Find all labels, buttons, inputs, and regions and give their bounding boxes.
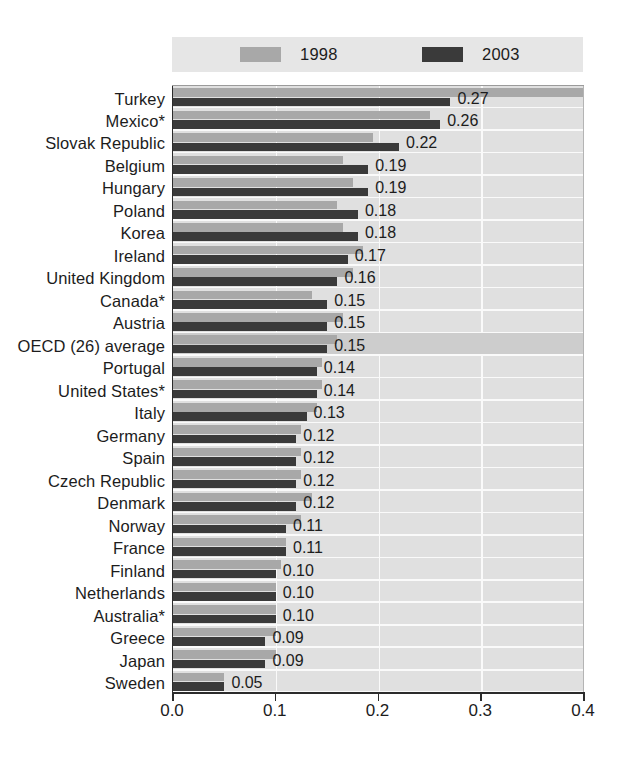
- category-label: Netherlands: [75, 582, 165, 604]
- data-label: 0.12: [303, 447, 334, 469]
- category-label: France: [113, 537, 165, 559]
- category-label: Italy: [134, 402, 165, 424]
- category-label: Belgium: [105, 155, 165, 177]
- axis-tick: [172, 692, 174, 701]
- category-label: OECD (26) average: [17, 335, 165, 357]
- bar-1998: [173, 335, 337, 344]
- axis-tick-label: 0.0: [160, 701, 184, 721]
- bar-2003: [173, 435, 296, 444]
- bar-1998: [173, 88, 584, 97]
- category-axis-labels: TurkeyMexico*Slovak RepublicBelgiumHunga…: [0, 86, 165, 693]
- bar-1998: [173, 246, 363, 255]
- data-label: 0.12: [303, 470, 334, 492]
- chart-row: [173, 603, 584, 625]
- bar-1998: [173, 403, 317, 412]
- legend-swatch-1998-icon: [240, 47, 281, 62]
- axis-tick: [275, 692, 277, 701]
- data-label: 0.16: [344, 267, 375, 289]
- data-label: 0.09: [272, 650, 303, 672]
- bar-2003: [173, 120, 440, 129]
- data-label: 0.15: [334, 312, 365, 334]
- data-label: 0.10: [283, 605, 314, 627]
- data-label: 0.27: [457, 88, 488, 110]
- category-label: Hungary: [102, 177, 165, 199]
- category-label: Slovak Republic: [45, 132, 165, 154]
- bar-2003: [173, 277, 337, 286]
- category-label: Denmark: [97, 492, 165, 514]
- data-label: 0.19: [375, 177, 406, 199]
- chart-legend: 1998 2003: [172, 37, 583, 72]
- data-label: 0.13: [314, 402, 345, 424]
- bar-2003: [173, 525, 286, 534]
- bar-1998: [173, 448, 301, 457]
- data-label: 0.18: [365, 200, 396, 222]
- data-label: 0.19: [375, 155, 406, 177]
- category-label: Czech Republic: [48, 470, 165, 492]
- data-label: 0.18: [365, 222, 396, 244]
- bar-1998: [173, 673, 224, 682]
- chart-row: [173, 536, 584, 558]
- bar-1998: [173, 201, 337, 210]
- bar-2003: [173, 390, 317, 399]
- data-label: 0.05: [231, 672, 262, 694]
- axis-tick-label: 0.4: [571, 701, 595, 721]
- bar-2003: [173, 210, 358, 219]
- bar-1998: [173, 291, 312, 300]
- category-label: Sweden: [105, 672, 165, 694]
- data-label: 0.22: [406, 132, 437, 154]
- data-label: 0.14: [324, 380, 355, 402]
- axis-tick-label: 0.3: [468, 701, 492, 721]
- data-label: 0.15: [334, 335, 365, 357]
- legend-swatch-2003-icon: [422, 47, 463, 62]
- legend-label-1998: 1998: [300, 45, 338, 64]
- category-label: Canada*: [100, 290, 165, 312]
- data-label: 0.11: [293, 537, 323, 559]
- bar-2003: [173, 457, 296, 466]
- bar-2003: [173, 345, 327, 354]
- chart-row: [173, 446, 584, 468]
- axis-tick: [583, 692, 585, 701]
- bar-2003: [173, 570, 276, 579]
- category-label: Turkey: [115, 88, 165, 110]
- chart-row: [173, 356, 584, 378]
- bar-2003: [173, 165, 368, 174]
- bar-2003: [173, 615, 276, 624]
- axis-tick-label: 0.2: [366, 701, 390, 721]
- bar-1998: [173, 493, 312, 502]
- legend-entry-1998: 1998: [240, 37, 338, 72]
- chart-row: [173, 491, 584, 513]
- chart-row: [173, 558, 584, 580]
- bar-1998: [173, 583, 276, 592]
- chart-row: [173, 513, 584, 535]
- chart-row: [173, 468, 584, 490]
- category-label: Korea: [120, 222, 165, 244]
- chart-row: [173, 581, 584, 603]
- bar-2003: [173, 232, 358, 241]
- category-label: Finland: [110, 560, 165, 582]
- data-label: 0.10: [283, 560, 314, 582]
- category-label: Germany: [96, 425, 165, 447]
- data-label: 0.26: [447, 110, 478, 132]
- chart-root: 1998 2003 TurkeyMexico*Slovak RepublicBe…: [0, 0, 620, 763]
- bar-1998: [173, 470, 301, 479]
- bar-2003: [173, 480, 296, 489]
- chart-row: [173, 423, 584, 445]
- bar-1998: [173, 605, 276, 614]
- bar-2003: [173, 255, 348, 264]
- data-label: 0.14: [324, 357, 355, 379]
- legend-label-2003: 2003: [482, 45, 520, 64]
- bar-1998: [173, 111, 430, 120]
- bar-2003: [173, 98, 450, 107]
- bar-2003: [173, 637, 265, 646]
- axis-tick: [378, 692, 380, 701]
- bar-1998: [173, 223, 343, 232]
- chart-row: [173, 131, 584, 153]
- data-label: 0.15: [334, 290, 365, 312]
- data-label: 0.12: [303, 425, 334, 447]
- chart-row: [173, 311, 584, 333]
- category-label: Ireland: [114, 245, 165, 267]
- data-label: 0.17: [355, 245, 386, 267]
- bar-2003: [173, 502, 296, 511]
- category-label: Mexico*: [106, 110, 165, 132]
- category-label: Norway: [108, 515, 165, 537]
